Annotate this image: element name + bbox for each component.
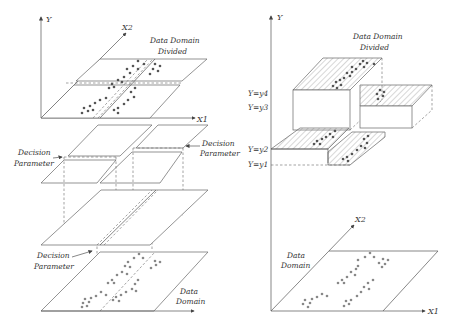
level-y4-label: Y=y4 [248, 89, 268, 98]
right-panel: Y Data Domain Divided Y=y4 Y=y3 Y=y2 Y=y… [248, 13, 439, 316]
level-y2-label: Y=y2 [248, 145, 268, 154]
right-x2-label: X2 [354, 215, 366, 224]
right-domain-label-1: Data [286, 251, 305, 260]
level-y1-label: Y=y1 [248, 160, 268, 169]
decision-left-label-2: Parameter [13, 159, 54, 168]
left-x1-label: X1 [196, 115, 208, 124]
decision-left-arrow [53, 157, 62, 158]
decision-left-label-1: Decision [17, 148, 51, 157]
right-divided-label-2: Divided [359, 43, 389, 52]
decision-right-label-2: Parameter [199, 149, 240, 158]
right-divided-label-1: Data Domain [352, 32, 403, 41]
level-y3-label: Y=y3 [248, 103, 268, 112]
left-domain-label-1: Data [179, 287, 198, 296]
decision-right-label-1: Decision [201, 139, 235, 148]
right-data-points [302, 252, 390, 309]
left-divided-label-2: Divided [157, 47, 187, 56]
decision-tree-domain-diagram: Y X2 X1 Data Domain Divided [0, 0, 453, 327]
left-divided-label-1: Data Domain [149, 36, 200, 45]
left-x2-label: X2 [121, 23, 133, 32]
top-divided-plane [41, 59, 207, 118]
middle-lower-plane [41, 190, 208, 245]
decision-bottom-label-1: Decision [36, 251, 70, 260]
right-y-label: Y [277, 13, 283, 22]
right-domain-label-2: Domain [280, 261, 311, 270]
decision-bottom-arrow [72, 251, 92, 257]
left-panel: Y X2 X1 Data Domain Divided [13, 15, 240, 311]
block-upper-right [360, 85, 432, 128]
decision-bottom-label-2: Parameter [33, 262, 74, 271]
left-y-label: Y [46, 15, 52, 24]
right-x1-label: X1 [427, 307, 439, 316]
left-domain-label-2: Domain [175, 297, 206, 306]
